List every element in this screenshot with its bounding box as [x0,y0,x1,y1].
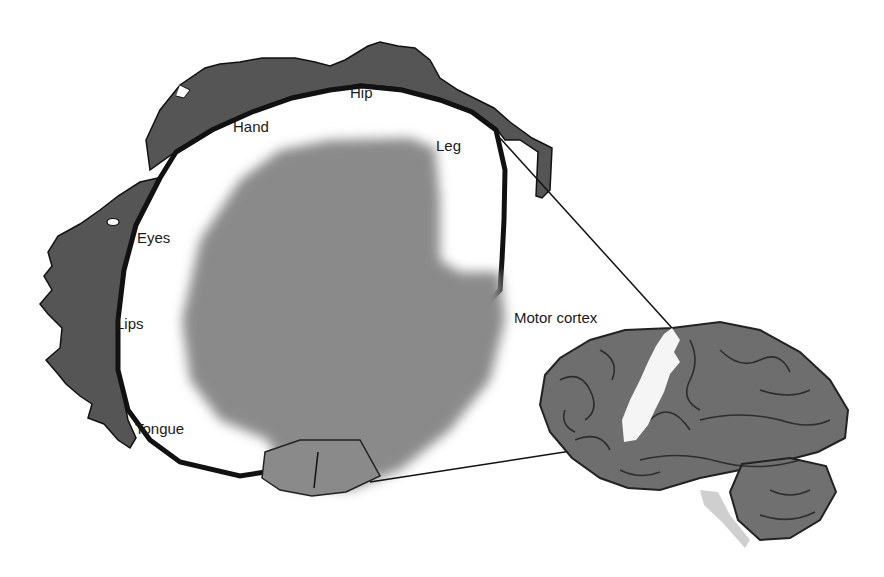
label-motor-cortex: Motor cortex [514,310,597,325]
label-lips: Lips [116,316,144,331]
label-eyes: Eyes [137,230,170,245]
brain-illustration [540,322,848,548]
diagram-canvas [0,0,884,577]
label-hip: Hip [350,85,373,100]
cortex-lower-lobe [262,440,380,496]
connector-line-top [500,138,672,328]
label-hand: Hand [233,119,269,134]
label-leg: Leg [436,138,461,153]
label-tongue: Tongue [135,421,184,436]
